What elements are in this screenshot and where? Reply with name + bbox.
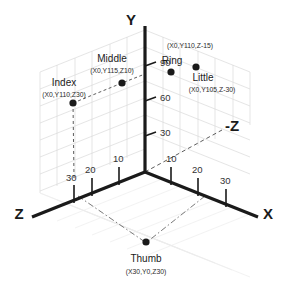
point-coord-ring: (X0,Y110,Z-15): [167, 42, 213, 50]
point-label-thumb: Thumb: [130, 253, 162, 264]
point-coord-little: (X0,Y105,Z-30): [189, 86, 235, 94]
point-coord-index: (X0,Y110,Z30): [42, 91, 86, 99]
axis-label-neg-z: -Z: [225, 117, 239, 134]
guide-index-drop: [73, 103, 74, 178]
point-marker-ring[interactable]: [167, 68, 174, 75]
x-axis-line: [145, 172, 258, 217]
y-tick-90: [145, 62, 156, 66]
x-tick-label-10: 10: [166, 153, 177, 164]
point-marker-thumb[interactable]: [142, 238, 149, 245]
point-marker-index[interactable]: [69, 99, 76, 106]
point-marker-little[interactable]: [192, 63, 199, 70]
axis-label-x: X: [263, 205, 273, 222]
guide-thumb-right: [147, 196, 205, 242]
z-axis-line: [32, 172, 145, 217]
y-tick-label-60: 60: [160, 92, 171, 103]
three-axis-plot: Y X Z -Z 90 60 30 10 20 30 10 20 30 Inde…: [0, 0, 284, 292]
z-tick-label-10: 10: [113, 153, 124, 164]
point-coord-middle: (X0,Y115,Z10): [90, 67, 134, 75]
point-label-index: Index: [52, 77, 76, 88]
guide-thumb-left: [78, 196, 145, 242]
x-tick-label-20: 20: [192, 164, 203, 175]
coordinate-diagram: Y X Z -Z 90 60 30 10 20 30 10 20 30 Inde…: [0, 0, 284, 292]
y-tick-label-30: 30: [160, 127, 171, 138]
z-tick-label-20: 20: [85, 164, 96, 175]
axis-label-y: Y: [126, 11, 136, 28]
point-marker-middle[interactable]: [118, 79, 125, 86]
point-label-middle: Middle: [97, 53, 127, 64]
x-tick-label-30: 30: [220, 175, 231, 186]
point-coord-thumb: (X30,Y0,Z30): [126, 268, 166, 276]
point-label-ring: Ring: [162, 55, 183, 66]
z-tick-label-30: 30: [66, 172, 77, 183]
point-label-little: Little: [192, 72, 214, 83]
axis-label-z: Z: [14, 205, 23, 222]
